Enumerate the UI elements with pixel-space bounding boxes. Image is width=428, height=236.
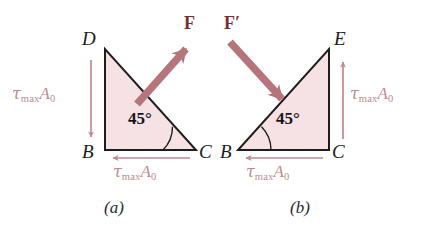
tau-symbol: τ <box>113 162 122 181</box>
tau-subscript: max <box>21 93 40 104</box>
stress-label-vertical: τmaxA0 <box>350 85 393 104</box>
angle-label-45: 45° <box>128 110 152 127</box>
vertex-label-b: B <box>82 142 94 161</box>
panel-b-graphics <box>214 0 428 236</box>
panel-b: E B C 45° F′ τmaxA0 τmaxA0 (b) <box>214 0 428 236</box>
triangle-dbc <box>105 49 196 150</box>
panel-b-caption: (b) <box>290 199 310 216</box>
stress-label-vertical: τmaxA0 <box>12 85 55 104</box>
area-subscript: 0 <box>50 93 55 104</box>
shear-stress-free-body-diagram-figure: D B C 45° F τmaxA0 τmaxA0 (a) <box>0 0 428 236</box>
panel-a: D B C 45° F τmaxA0 τmaxA0 (a) <box>0 0 214 236</box>
area-subscript: 0 <box>388 93 393 104</box>
vertex-label-c: C <box>199 142 212 161</box>
vertex-label-d: D <box>82 29 96 48</box>
force-arrow-f-prime <box>230 42 282 99</box>
tau-symbol: τ <box>350 84 359 103</box>
tau-subscript: max <box>359 93 378 104</box>
tau-symbol: τ <box>246 162 255 181</box>
vertex-label-e: E <box>334 29 346 48</box>
angle-label-45: 45° <box>276 110 300 127</box>
vertex-label-c: C <box>332 142 345 161</box>
area-symbol: A <box>141 162 151 181</box>
force-label-f: F <box>184 14 195 32</box>
tau-subscript: max <box>122 171 141 182</box>
stress-label-horizontal: τmaxA0 <box>246 163 289 182</box>
tau-symbol: τ <box>12 84 21 103</box>
area-subscript: 0 <box>151 171 156 182</box>
area-symbol: A <box>274 162 284 181</box>
stress-label-horizontal: τmaxA0 <box>113 163 156 182</box>
force-label-f-prime: F′ <box>224 14 240 32</box>
vertex-label-b: B <box>220 142 232 161</box>
force-arrow-f <box>137 49 186 104</box>
area-subscript: 0 <box>284 171 289 182</box>
tau-subscript: max <box>255 171 274 182</box>
area-symbol: A <box>378 84 388 103</box>
area-symbol: A <box>40 84 50 103</box>
panel-a-caption: (a) <box>104 199 124 216</box>
